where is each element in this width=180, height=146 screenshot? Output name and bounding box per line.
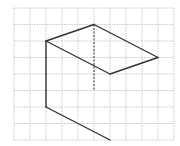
figure-edges [46,25,158,141]
diagram-canvas [0,0,180,146]
figure-edge [110,58,158,75]
figure-edge [46,25,94,42]
